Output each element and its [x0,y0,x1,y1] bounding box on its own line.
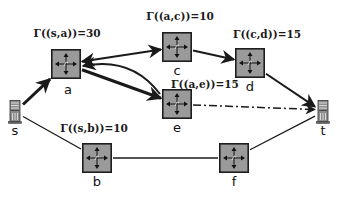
edge-f-t [250,116,315,150]
node-label-f: f [232,174,237,189]
server-icon [317,101,330,124]
nodes-layer: sacdebft [9,33,330,189]
router-icon [163,90,191,118]
edge-a-e [82,70,161,98]
flow-network-diagram: sacdebft Γ((s,a))=30 Γ((a,c))=10 Γ((c,d)… [0,0,347,198]
node-label-b: b [93,174,101,189]
capacity-label-s-b: Γ((s,b))=10 [60,122,128,134]
node-label-t: t [320,123,325,138]
edge-s-a [23,79,50,104]
edge-e-t [193,105,315,110]
node-label-a: a [64,82,72,97]
node-label-c: c [173,63,180,78]
server-icon [9,101,22,124]
node-d[interactable]: d [236,49,264,94]
capacity-label-a-c: Γ((a,c))=10 [146,10,214,22]
capacity-label-a-e: Γ((a,e))=15 [171,78,239,90]
node-e[interactable]: e [163,90,191,135]
node-s[interactable]: s [9,101,22,139]
node-t[interactable]: t [317,101,330,139]
node-label-s: s [12,123,19,138]
edge-d-t [266,74,315,107]
router-icon [163,33,191,61]
router-icon [220,144,248,172]
edge-e-a [83,64,160,94]
node-b[interactable]: b [83,144,111,189]
router-icon [236,49,264,77]
edge-a-c [82,49,161,61]
node-a[interactable]: a [52,50,80,97]
router-icon [52,50,80,78]
node-label-d: d [246,79,254,94]
capacity-label-s-a: Γ((s,a))=30 [33,27,100,39]
edge-c-d [193,51,234,60]
node-label-e: e [173,120,181,135]
router-icon [83,144,111,172]
node-c[interactable]: c [163,33,191,78]
node-f[interactable]: f [220,144,248,189]
capacity-label-c-d: Γ((c,d))=15 [233,28,301,40]
